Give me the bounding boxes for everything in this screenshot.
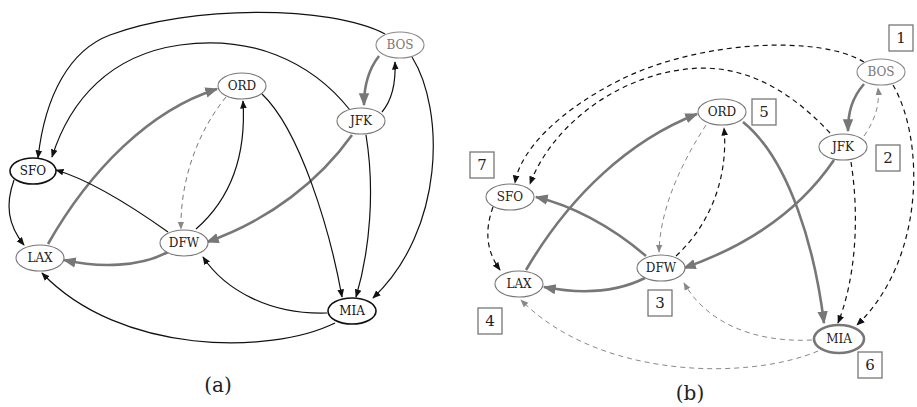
node-lax-a: LAX <box>16 245 64 271</box>
node-sfo-b: SFO <box>486 184 534 210</box>
order-box-ord: 5 <box>752 99 776 125</box>
svg-text:LAX: LAX <box>27 251 53 265</box>
order-box-mia: 6 <box>858 352 882 378</box>
svg-text:JFK: JFK <box>348 114 373 128</box>
svg-text:7: 7 <box>477 156 487 174</box>
svg-text:6: 6 <box>865 356 875 374</box>
edge-lax-ord <box>48 89 217 244</box>
edge-mia-lax <box>42 273 335 343</box>
svg-text:BOS: BOS <box>867 65 894 79</box>
svg-text:2: 2 <box>883 149 893 167</box>
caption-a: (a) <box>204 373 232 397</box>
node-ord-b: ORD <box>698 99 746 125</box>
node-dfw-a: DFW <box>160 230 208 256</box>
edge-jfk-bos <box>382 62 395 112</box>
svg-text:5: 5 <box>759 103 769 121</box>
svg-text:ORD: ORD <box>708 105 737 119</box>
edge-mia-dfw <box>203 257 327 313</box>
order-box-dfw: 3 <box>648 290 672 316</box>
edge-sfo-lax <box>9 180 24 245</box>
svg-text:MIA: MIA <box>826 332 852 346</box>
edges-b <box>488 45 914 369</box>
edge-ord-dfw <box>181 97 226 229</box>
caption-b: (b) <box>676 381 704 405</box>
edge-jfk-sfo <box>52 43 350 157</box>
order-box-lax: 4 <box>478 308 502 334</box>
edge-dfw-ord <box>196 101 243 229</box>
edge-dfw-sfo <box>536 197 646 256</box>
edge-jfk-bos <box>864 88 878 136</box>
edge-jfk-dfw <box>207 135 352 242</box>
svg-text:3: 3 <box>655 294 665 312</box>
edge-bos-mia <box>857 85 914 325</box>
node-bos-a: BOS <box>376 32 424 58</box>
edge-dfw-sfo <box>56 170 168 232</box>
edge-bos-sfo <box>38 12 385 158</box>
node-bos-b: BOS <box>857 59 905 85</box>
edges-a <box>9 12 433 343</box>
node-jfk-a: JFK <box>337 108 385 134</box>
node-mia-b: MIA <box>814 325 864 353</box>
nodes-a: BOS ORD JFK SFO DFW LAX <box>10 32 424 324</box>
svg-text:JFK: JFK <box>830 140 855 154</box>
edge-bos-mia <box>373 57 433 298</box>
svg-text:SFO: SFO <box>497 190 524 204</box>
edge-jfk-mia <box>356 135 371 297</box>
order-box-bos: 1 <box>889 25 913 51</box>
edge-ord-mia <box>743 122 824 323</box>
node-lax-b: LAX <box>495 271 543 297</box>
flight-graph-figure: BOS ORD JFK SFO DFW LAX <box>0 0 917 407</box>
order-box-sfo: 7 <box>470 152 494 178</box>
edge-bos-jfk <box>364 56 379 105</box>
nodes-b: BOS JFK DFW LAX ORD MIA <box>486 59 905 353</box>
svg-text:BOS: BOS <box>386 38 413 52</box>
svg-text:1: 1 <box>896 29 906 47</box>
edge-dfw-lax <box>64 252 168 265</box>
node-dfw-b: DFW <box>637 255 685 281</box>
svg-text:MIA: MIA <box>339 304 365 318</box>
svg-text:DFW: DFW <box>646 261 677 275</box>
edge-sfo-lax <box>488 207 500 270</box>
edge-jfk-mia <box>838 162 855 323</box>
node-jfk-b: JFK <box>819 134 867 160</box>
svg-text:SFO: SFO <box>20 164 47 178</box>
edge-bos-sfo <box>515 45 864 183</box>
node-sfo-a: SFO <box>10 158 56 184</box>
panel-b: BOS JFK DFW LAX ORD MIA <box>470 25 914 405</box>
svg-text:DFW: DFW <box>169 236 200 250</box>
edge-ord-mia <box>262 94 342 297</box>
edge-jfk-sfo <box>530 68 830 184</box>
order-box-jfk: 2 <box>876 145 900 171</box>
svg-text:4: 4 <box>485 312 495 330</box>
edge-dfw-ord <box>676 128 725 256</box>
edge-dfw-lax <box>544 278 645 291</box>
edge-ord-dfw <box>659 125 706 252</box>
svg-text:ORD: ORD <box>228 79 257 93</box>
node-mia-a: MIA <box>328 298 376 324</box>
edge-mia-dfw <box>684 283 812 340</box>
panel-a: BOS ORD JFK SFO DFW LAX <box>9 12 433 397</box>
svg-text:LAX: LAX <box>506 277 532 291</box>
node-ord-a: ORD <box>218 73 266 99</box>
edge-bos-jfk <box>848 84 864 131</box>
